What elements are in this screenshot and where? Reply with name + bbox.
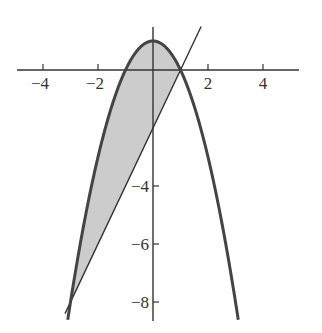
x-tick-label: −2 [86, 74, 104, 93]
y-tick-label: −8 [131, 293, 149, 312]
x-tick-label: 2 [204, 74, 213, 93]
y-ticks: −4−6−8 [131, 177, 159, 312]
x-tick-label: −4 [31, 74, 50, 93]
y-tick-label: −4 [131, 177, 150, 196]
x-tick-label: 4 [259, 74, 268, 93]
area-between-curves-plot: −4−224 −4−6−8 [0, 0, 322, 333]
y-tick-label: −6 [131, 235, 149, 254]
